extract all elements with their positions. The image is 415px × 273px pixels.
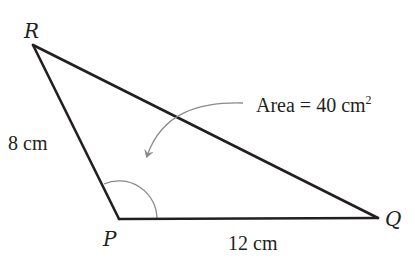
edge-pq <box>119 218 378 219</box>
area-label: Area = 40 cm2 <box>256 93 372 116</box>
area-arrow <box>147 103 243 156</box>
edge-rq <box>33 45 378 218</box>
triangle-diagram: R P Q 8 cm 12 cm Area = 40 cm2 <box>0 0 415 273</box>
vertex-label-p: P <box>102 227 117 251</box>
vertex-label-q: Q <box>385 207 401 231</box>
vertex-label-r: R <box>23 19 39 43</box>
area-label-superscript: 2 <box>366 93 372 107</box>
angle-arc-p <box>104 181 157 219</box>
side-label-pq: 12 cm <box>228 232 278 254</box>
area-label-text: Area = 40 cm <box>256 94 366 116</box>
side-label-pr: 8 cm <box>8 132 48 154</box>
